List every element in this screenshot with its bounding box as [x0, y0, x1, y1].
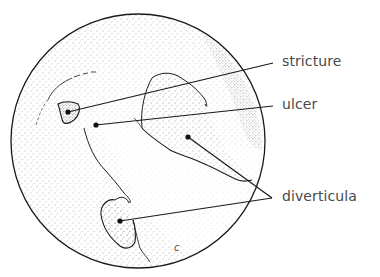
label-corner-mark: c: [174, 243, 180, 253]
stricture-dot: [65, 109, 70, 114]
label-diverticula: diverticula: [282, 189, 357, 203]
endoscopy-diagram: stricture ulcer diverticula c: [0, 0, 380, 277]
label-ulcer: ulcer: [282, 97, 317, 111]
label-stricture: stricture: [282, 54, 341, 68]
diverticulum-upper-dot: [185, 134, 190, 139]
diverticulum-lower-dot: [117, 218, 122, 223]
ulcer-dot: [93, 122, 98, 127]
diagram-canvas: [0, 0, 380, 277]
